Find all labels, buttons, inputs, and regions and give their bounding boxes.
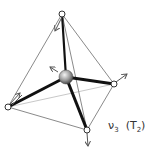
mode-index: 3: [114, 126, 118, 134]
symmetry-open: (T: [126, 119, 137, 132]
vertex-atom-right: [111, 81, 117, 87]
vertex-atom-bottom: [84, 127, 90, 133]
vertex-atom-left: [5, 104, 11, 110]
arrow-bottom-icon: [87, 133, 88, 146]
symmetry-close: ): [141, 119, 145, 132]
arrow-right-icon: [116, 74, 127, 82]
bond-right: [66, 77, 114, 84]
center-atom: [59, 70, 73, 84]
bond-bottom: [66, 77, 87, 130]
mode-label: ν3 (T2): [108, 119, 145, 134]
edge-left-right-hidden: [8, 84, 114, 107]
vertex-atom-top: [59, 11, 65, 17]
edge-left-bottom: [8, 107, 87, 130]
arrow-center-icon: [50, 67, 58, 72]
